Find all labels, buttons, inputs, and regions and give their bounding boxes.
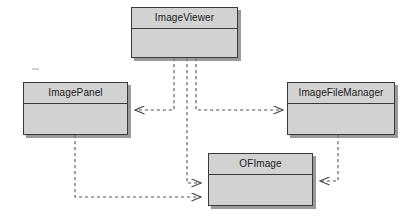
class-name-compartment: OFImage [209, 154, 312, 175]
class-name-label: ImageFileManager [299, 88, 384, 98]
edge-file-manager-to-of-image [320, 135, 338, 181]
class-attribute-compartment [209, 175, 312, 205]
edge-viewer-to-panel [135, 58, 174, 110]
class-box-image-panel[interactable]: ImagePanel [23, 82, 128, 135]
class-name-compartment: ImagePanel [24, 83, 127, 104]
class-name-label: OFImage [239, 159, 281, 169]
edge-viewer-to-of-image [187, 58, 201, 183]
edge-panel-to-of-image [75, 135, 201, 197]
class-attribute-compartment [288, 104, 394, 134]
class-box-of-image[interactable]: OFImage [208, 153, 313, 206]
class-name-compartment: ImageFileManager [288, 83, 394, 104]
class-box-image-viewer[interactable]: ImageViewer [131, 7, 238, 58]
uml-class-diagram: ImageViewer ImagePanel ImageFileManager … [0, 0, 416, 222]
class-attribute-compartment [132, 29, 237, 57]
class-box-image-file-manager[interactable]: ImageFileManager [287, 82, 395, 135]
class-attribute-compartment [24, 104, 127, 134]
class-name-compartment: ImageViewer [132, 8, 237, 29]
class-name-label: ImageViewer [155, 13, 214, 23]
edge-viewer-to-file-manager [196, 58, 283, 110]
class-name-label: ImagePanel [48, 88, 102, 98]
